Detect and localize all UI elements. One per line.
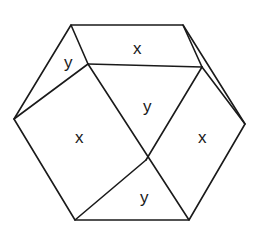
label-bottom-y: y [140,188,149,207]
label-center-y: y [143,97,152,116]
label-right-x: x [198,128,207,147]
top-right-to-inner [183,25,202,67]
center-to-bottom-left [75,160,146,220]
label-top-x: x [133,39,142,58]
top-inner-edge [88,64,202,67]
inner-right-to-center [146,67,202,160]
label-top-left-y: y [64,53,73,72]
hexagon-dissection-diagram: x y y x x y [0,0,263,237]
outer-hexagon [14,25,245,220]
label-left-x: x [75,128,84,147]
inner-right-to-right [202,67,245,124]
top-left-to-inner [71,25,88,64]
left-to-inner [14,64,88,119]
